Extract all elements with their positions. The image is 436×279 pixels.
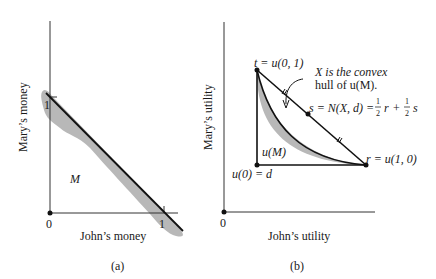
panel-b: t = u(0, 1) r = u(1, 0) u(0) = d u(M) X … bbox=[201, 22, 418, 273]
region-label-um: u(M) bbox=[262, 145, 286, 159]
frac2-den: 2 bbox=[405, 109, 409, 118]
caption-b: (b) bbox=[290, 259, 304, 273]
region-label-m: M bbox=[69, 172, 81, 186]
x-axis-label-a: John’s money bbox=[80, 229, 146, 243]
x-tick-label-a: 1 bbox=[159, 217, 165, 231]
origin-dot-b bbox=[222, 210, 227, 215]
x-axis-label-b: John’s utility bbox=[268, 229, 330, 243]
point-t-label: t = u(0, 1) bbox=[254, 56, 303, 70]
point-s-label: s = N(X, d) = bbox=[309, 101, 374, 115]
region-m-shading bbox=[41, 90, 183, 237]
annotation-line-2: hull of u(M). bbox=[315, 78, 377, 92]
panel-a: 1 1 0 M John’s money Mary’s money (a) bbox=[16, 21, 183, 273]
origin-label-a: 0 bbox=[46, 217, 52, 231]
annotation-line-1: X is the convex bbox=[314, 65, 388, 79]
s-eq-plus: + bbox=[393, 101, 400, 115]
figure-canvas: 1 1 0 M John’s money Mary’s money (a) bbox=[0, 0, 436, 279]
point-r-label: r = u(1, 0) bbox=[366, 152, 417, 166]
caption-a: (a) bbox=[111, 259, 124, 273]
frac2-num: 1 bbox=[405, 97, 409, 106]
origin-label-b: 0 bbox=[220, 216, 226, 230]
frac1-den: 2 bbox=[376, 109, 380, 118]
y-axis-label-a: Mary’s money bbox=[16, 82, 30, 152]
s-eq-s: s bbox=[413, 101, 418, 115]
s-eq-r: r bbox=[384, 101, 389, 115]
pareto-line-a bbox=[46, 93, 183, 231]
origin-dot-a bbox=[48, 211, 53, 216]
y-axis-label-b: Mary’s utility bbox=[201, 84, 215, 150]
frac1-num: 1 bbox=[376, 97, 380, 106]
y-tick-label-a: 1 bbox=[44, 98, 50, 112]
point-d-label: u(0) = d bbox=[232, 167, 273, 181]
